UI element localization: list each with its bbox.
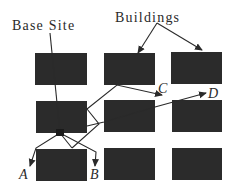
route-to-a [30,133,60,166]
base-site-marker [56,129,64,136]
route-to-d [87,93,206,126]
route-to-c [87,85,162,109]
destination-label-d: D [208,87,218,101]
destination-label-b: B [90,168,99,182]
destination-label-c: C [158,82,167,96]
route-crossing [72,109,99,148]
route-to-b [60,133,96,166]
destination-label-a: A [19,168,28,182]
base-site-label: Base Site [12,19,75,33]
buildings-arrow-1 [138,23,157,53]
site-diagram: Base Site Buildings A B C D [0,0,235,188]
base-site-pointer-line [50,33,60,133]
buildings-label: Buildings [115,11,180,25]
buildings-arrow-2 [157,23,202,50]
